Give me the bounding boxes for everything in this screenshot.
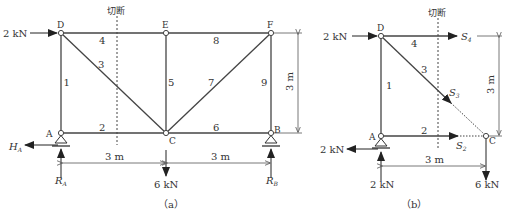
member-3 [61,33,166,133]
member-label-2-b: 2 [421,125,427,136]
load-label-C: 6 kN [154,179,179,190]
figure-b: 切断 4 3 1 2 S4 S3 S2 D A C [320,7,502,210]
member-7 [166,33,271,133]
node-label-D-b: D [377,23,384,33]
dim-label-right: 3 m [211,151,231,162]
dim-label-height-b: 3 m [485,74,496,94]
node-C [163,130,168,135]
node-label-C-b: C [489,136,496,146]
member-label-7: 7 [208,77,214,88]
member-label-4-b: 4 [411,38,417,49]
caption-b: （b） [401,199,427,210]
node-label-F: F [267,20,273,30]
force-label-S2: S2 [456,140,467,152]
node-D [58,30,63,35]
support-A [52,136,70,147]
node-E [163,30,168,35]
truss-diagram: 切断 1 2 3 4 5 6 7 8 9 [0,0,509,217]
dotted-guides-b [451,103,484,136]
node-D-b [378,33,383,38]
node-label-A: A [45,129,53,139]
node-label-D: D [57,20,64,30]
member-label-8: 8 [213,35,219,46]
support-B [262,136,280,147]
members-b [381,36,458,136]
member-label-6: 6 [213,122,219,133]
roller-support-icon [265,136,277,144]
member-label-2: 2 [99,122,105,133]
member-label-5: 5 [168,77,174,88]
dim-label-width-b: 3 m [425,154,445,165]
dim-label-height: 3 m [284,71,295,91]
load-label-D-b: 2 kN [323,31,348,42]
force-label-S3: S3 [449,87,460,99]
load-label-D: 2 kN [3,28,28,39]
force-label-S4: S4 [461,31,472,43]
node-C-b [483,133,488,138]
reaction-label-RA: RA [54,175,68,187]
member-label-3-b: 3 [421,64,427,75]
node-label-E: E [162,20,169,30]
dim-label-left: 3 m [105,151,125,162]
node-F [268,30,273,35]
member-label-1: 1 [64,77,70,88]
member-label-4: 4 [99,35,105,46]
cut-label-b: 切断 [428,7,446,18]
cut-label-a: 切断 [107,5,125,16]
node-label-A-b: A [368,132,376,142]
load-label-C-b: 6 kN [475,179,500,190]
node-label-B: B [274,125,281,135]
caption-a: （a） [158,199,184,210]
reaction-label-HA: HA [8,141,23,153]
reaction-label-RB: RB [265,175,279,187]
pin-support-icon [55,136,67,144]
figure-a: 切断 1 2 3 4 5 6 7 8 9 [3,5,302,210]
member-label-3: 3 [98,59,104,70]
load-label-A-horizontal: 2 kN [320,144,345,155]
member-label-9: 9 [261,77,267,88]
pin-support-icon [375,139,387,147]
node-label-C: C [169,136,176,146]
member-label-1-b: 1 [386,80,392,91]
load-label-A-vertical: 2 kN [370,179,395,190]
members-a [61,33,271,133]
dimensions-b [382,36,502,166]
